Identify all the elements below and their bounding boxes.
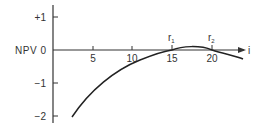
y-tick-label-plus1: +1 (35, 12, 47, 23)
npv-chart: +1 0 −1 −2 NPV 5 10 15 20 i r1 r2 (0, 0, 263, 132)
y-tick-label-minus1: −1 (35, 78, 47, 89)
y-tick-label-minus2: −2 (35, 111, 47, 122)
y-tick-label-0: 0 (40, 45, 46, 56)
x-tick-label-20: 20 (206, 53, 218, 64)
x-tick-label-5: 5 (90, 53, 96, 64)
r2-annotation: r2 (208, 32, 215, 44)
x-axis-label: i (248, 45, 251, 56)
chart-canvas: +1 0 −1 −2 NPV 5 10 15 20 i r1 r2 (0, 0, 263, 132)
r1-annotation: r1 (168, 32, 175, 44)
x-axis-arrow-icon (238, 47, 246, 53)
y-axis-label: NPV (15, 45, 37, 56)
x-tick-label-15: 15 (166, 53, 178, 64)
